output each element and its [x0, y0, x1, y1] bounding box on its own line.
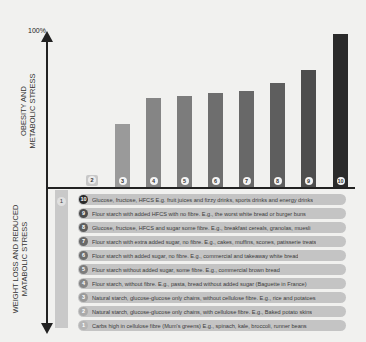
legend-text: Glucose, fructose, HFCS E.g. fruit juice… — [92, 197, 313, 203]
legend-text: Flour starch with extra added sugar, no … — [92, 239, 316, 245]
legend-text: Flour starch without added sugar, some f… — [92, 267, 280, 273]
legend-num: 5 — [79, 265, 88, 274]
top-axis-label-line2: METABOLIC STRESS — [28, 61, 37, 161]
legend-text: Flour starch, without fibre. E.g., pasta… — [92, 281, 307, 287]
legend-text: Natural starch, glucose-glucose only cha… — [92, 295, 316, 301]
bar-label: 3 — [119, 177, 127, 185]
legend-row-5: 5 Flour starch without added sugar, some… — [78, 264, 346, 275]
legend-num: 10 — [79, 195, 88, 204]
legend-text: Natural starch, glucose-glucose only cha… — [92, 309, 312, 315]
bar-3: 3 — [115, 124, 130, 187]
legend-text: Glucose, fructose, HFCS and sugar some f… — [92, 225, 311, 231]
bar-4: 4 — [146, 98, 161, 187]
top-axis-label-line1: OBESITY AND — [19, 61, 28, 161]
legend-row-10: 10 Glucose, fructose, HFCS E.g. fruit ju… — [78, 194, 346, 205]
bar-6: 6 — [208, 93, 223, 187]
legend-row-2: 2 Natural starch, glucose-glucose only c… — [78, 306, 346, 317]
legend-num: 3 — [79, 293, 88, 302]
bar-label: 7 — [243, 177, 251, 185]
legend-row-6: 6 Flour starch with added sugar, no fibr… — [78, 250, 346, 261]
legend-num: 6 — [79, 251, 88, 260]
bottom-axis-label-line1: WEIGHT LOSS AND REDUCED — [11, 199, 20, 319]
bottom-axis-label: WEIGHT LOSS AND REDUCED MATABOLIC STRESS — [11, 199, 29, 319]
top-axis-label: OBESITY AND METABOLIC STRESS — [19, 61, 37, 161]
bar-7: 7 — [239, 91, 254, 187]
bar-1-label: 1 — [57, 197, 66, 206]
bar-label: 6 — [212, 177, 220, 185]
legend-row-8: 8 Glucose, fructose, HFCS and sugar some… — [78, 222, 346, 233]
legend-num: 1 — [79, 321, 88, 330]
bar-label: 8 — [274, 177, 282, 185]
legend-num: 7 — [79, 237, 88, 246]
legend-row-9: 9 Flour starch with added HFCS with no f… — [78, 208, 346, 219]
arrow-down-icon — [41, 323, 53, 334]
bar-5: 5 — [177, 96, 192, 187]
x-axis-baseline — [46, 187, 355, 189]
legend-num: 4 — [79, 279, 88, 288]
bar-label: 9 — [305, 177, 313, 185]
bar-10: 10 — [333, 34, 348, 187]
legend-row-1: 1 Carbs high in cellulose fibre (Mum's g… — [78, 320, 346, 331]
bar-8: 8 — [270, 83, 285, 187]
bar-1-column: 1 — [55, 190, 68, 328]
legend-num: 9 — [79, 209, 88, 218]
bar-label: 10 — [337, 177, 345, 185]
legend-num: 8 — [79, 223, 88, 232]
bottom-axis-label-line2: MATABOLIC STRESS — [20, 199, 29, 319]
legend-num: 2 — [79, 307, 88, 316]
bar-9: 9 — [301, 70, 316, 187]
bar-2: 2 — [86, 175, 98, 186]
bar-label: 4 — [150, 177, 158, 185]
legend-row-4: 4 Flour starch, without fibre. E.g., pas… — [78, 278, 346, 289]
legend-row-7: 7 Flour starch with extra added sugar, n… — [78, 236, 346, 247]
y-axis-line — [46, 40, 48, 325]
legend-text: Flour starch with added HFCS with no fib… — [92, 211, 306, 217]
legend-text: Carbs high in cellulose fibre (Mum's gre… — [92, 323, 307, 329]
legend-row-3: 3 Natural starch, glucose-glucose only c… — [78, 292, 346, 303]
bar-label: 5 — [181, 177, 189, 185]
bar-label: 2 — [88, 176, 96, 184]
legend-text: Flour starch with added sugar, no fibre.… — [92, 253, 298, 259]
